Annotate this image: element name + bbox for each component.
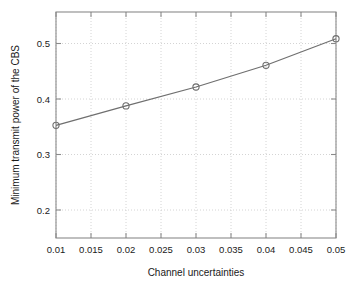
x-tick-label: 0.01 — [47, 244, 66, 255]
x-axis-title: Channel uncertainties — [148, 267, 245, 278]
y-tick-label: 0.5 — [37, 38, 50, 49]
x-tick-label: 0.03 — [187, 244, 206, 255]
x-tick-label: 0.05 — [327, 244, 346, 255]
x-tick-label: 0.045 — [289, 244, 313, 255]
x-tick-label: 0.02 — [117, 244, 136, 255]
y-tick-label: 0.2 — [37, 205, 50, 216]
y-axis-title: Minimum transmit power of the CBS — [10, 45, 21, 205]
line-chart-canvas: 0.5 0.4 0.3 0.2 0.01 0.015 0.02 0.025 0.… — [0, 0, 362, 289]
x-tick-label: 0.035 — [219, 244, 243, 255]
y-tick-label: 0.3 — [37, 149, 50, 160]
x-tick-labels: 0.01 0.015 0.02 0.025 0.03 0.035 0.04 0.… — [47, 244, 346, 255]
x-tick-label: 0.025 — [149, 244, 173, 255]
chart-figure: 0.5 0.4 0.3 0.2 0.01 0.015 0.02 0.025 0.… — [0, 0, 362, 289]
y-tick-label: 0.4 — [37, 94, 50, 105]
x-tick-label: 0.04 — [257, 244, 276, 255]
x-tick-label: 0.015 — [79, 244, 103, 255]
